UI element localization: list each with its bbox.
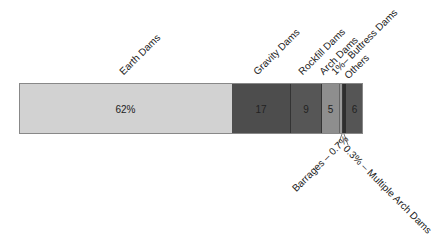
stacked-bar-chart: 62% 17 9 5 6 Earth Dams Gravity Dams Roc… xyxy=(0,0,442,237)
leader-lines xyxy=(0,0,442,237)
